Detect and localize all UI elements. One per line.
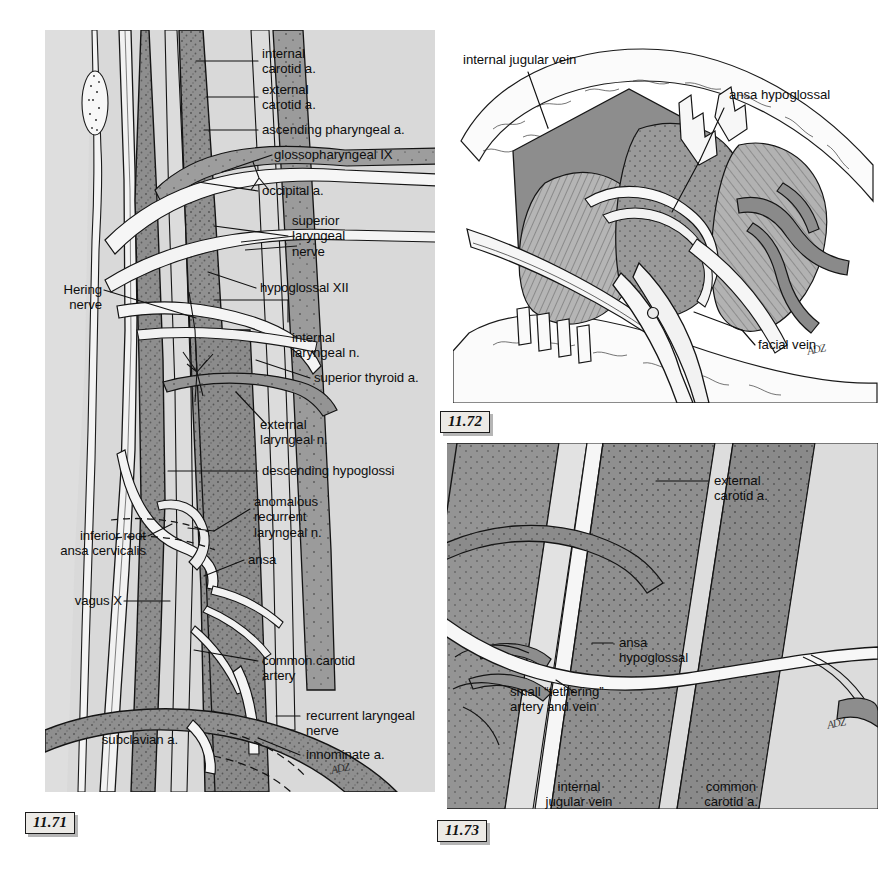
label-innominate-a: innominate a.: [306, 747, 385, 762]
label-occipital-a: occipital a.: [262, 183, 324, 198]
label-inferior-root-ansa-cervicalis: inferior root ansa cervicalis: [0, 528, 146, 559]
figure-number-11-72: 11.72: [440, 411, 490, 433]
label-superior-thyroid-a: superior thyroid a.: [314, 370, 419, 385]
label-hypoglossal-xii: hypoglossal XII: [260, 280, 349, 295]
label-internal-jugular-vein-73: internal jugular vein: [524, 779, 634, 810]
illustration-page: ADZ: [0, 0, 881, 893]
label-superior-laryngeal-nerve: superior laryngeal nerve: [292, 213, 345, 259]
label-hering-nerve: Hering nerve: [0, 282, 102, 313]
label-subclavian-a: subclavian a.: [60, 732, 220, 747]
label-internal-laryngeal-n: internal laryngeal n.: [292, 330, 360, 361]
label-recurrent-laryngeal-nerve: recurrent laryngeal nerve: [306, 708, 415, 739]
label-common-carotid-a-73: common carotid a.: [676, 779, 786, 810]
label-ansa-hypoglossal-73: ansa hypoglossal: [619, 635, 688, 666]
figure-11-71-artwork: [45, 30, 435, 792]
label-external-carotid-a-73: external carotid a.: [714, 473, 768, 504]
label-ansa: ansa: [248, 552, 276, 567]
figure-11-73-artwork: [447, 443, 878, 809]
label-common-carotid-artery: common carotid artery: [262, 653, 355, 684]
figure-number-11-73: 11.73: [437, 820, 487, 842]
label-external-laryngeal-n: external laryngeal n.: [260, 417, 328, 448]
label-external-carotid-a: external carotid a.: [262, 82, 316, 113]
figure-number-11-71: 11.71: [25, 812, 75, 834]
label-vagus-x: vagus X: [0, 593, 122, 608]
label-internal-jugular-vein: internal jugular vein: [463, 52, 576, 67]
label-internal-carotid-a: internal carotid a.: [262, 46, 316, 77]
label-facial-vein: facial vein: [758, 337, 816, 352]
label-descending-hypoglossi: descending hypoglossi: [262, 463, 394, 478]
label-small-tethering-artery-and-vein: small “tethering” artery and vein: [510, 684, 604, 715]
label-anomalous-recurrent-laryngeal-n: anomalous recurrent laryngeal n.: [254, 494, 322, 540]
figure-panel-11-71: ADZ: [45, 30, 435, 792]
label-ansa-hypoglossal-72: ansa hypoglossal: [729, 87, 830, 102]
label-ascending-pharyngeal-a: ascending pharyngeal a.: [262, 122, 405, 137]
figure-panel-11-73: ADZ: [447, 443, 878, 809]
label-glossopharyngeal-ix: glossopharyngeal IX: [274, 147, 393, 162]
